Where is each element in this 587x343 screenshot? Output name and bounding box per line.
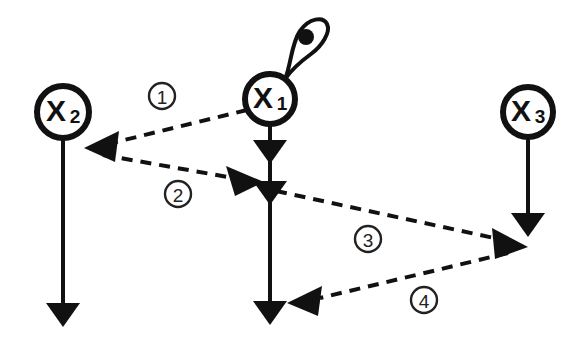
node-x1[interactable]: X 1	[245, 74, 295, 124]
edge-label-4: 4	[411, 287, 437, 313]
edge-label-1: 1	[149, 83, 175, 109]
edge-3-shaft	[276, 191, 494, 238]
edge-label-2: 2	[165, 181, 191, 207]
edge-label-1-text: 1	[157, 87, 168, 108]
edge-label-4-text: 4	[419, 291, 430, 312]
x1-timeline	[253, 124, 287, 325]
causal-graph-svg: X 2 X 1 X 3 1 2 3 4	[0, 0, 587, 343]
node-x3-subscript: 3	[535, 106, 546, 127]
x1-self-loop-dot	[298, 29, 314, 45]
edge-3-arrow	[276, 191, 528, 259]
edge-2-arrowhead	[226, 166, 264, 196]
edge-4-arrow	[287, 253, 508, 316]
node-x2[interactable]: X 2	[37, 86, 89, 138]
x3-timeline-arrowhead	[511, 213, 545, 237]
edge-4-arrowhead	[287, 286, 322, 316]
node-x3[interactable]: X 3	[503, 87, 553, 137]
edge-label-3-text: 3	[363, 230, 374, 251]
edge-label-3: 3	[355, 226, 381, 252]
diagram-canvas: X 2 X 1 X 3 1 2 3 4	[0, 0, 587, 343]
node-x1-label: X	[253, 81, 273, 114]
x1-self-loop	[277, 19, 328, 80]
x1-timeline-arrowhead-3	[253, 301, 287, 325]
x3-timeline	[511, 137, 545, 237]
edge-label-2-text: 2	[173, 185, 184, 206]
node-x2-subscript: 2	[70, 106, 81, 127]
x2-timeline-arrowhead	[46, 303, 80, 327]
x2-timeline	[46, 138, 80, 327]
edge-2-shaft	[103, 155, 228, 177]
node-x2-label: X	[46, 94, 66, 127]
node-x3-label: X	[511, 94, 531, 127]
edge-1-shaft	[112, 110, 247, 143]
x1-self-loop-teardrop	[285, 19, 328, 79]
node-x1-subscript: 1	[277, 93, 288, 114]
x1-timeline-arrowhead-1	[253, 140, 287, 164]
